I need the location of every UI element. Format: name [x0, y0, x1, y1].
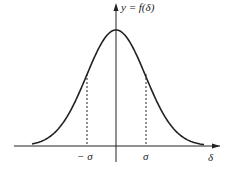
- sigma-label: σ: [143, 150, 148, 162]
- x-axis-label: δ: [208, 151, 213, 163]
- y-axis-label: y = f(δ): [121, 1, 154, 13]
- normal-distribution-diagram: y = f(δ) δ − σ σ: [0, 0, 228, 173]
- x-axis-arrow-icon: [212, 144, 220, 149]
- diagram-canvas: [0, 0, 228, 173]
- minus-sigma-label: − σ: [77, 150, 93, 162]
- gaussian-curve: [32, 30, 204, 145]
- y-axis-arrow-icon: [114, 3, 119, 11]
